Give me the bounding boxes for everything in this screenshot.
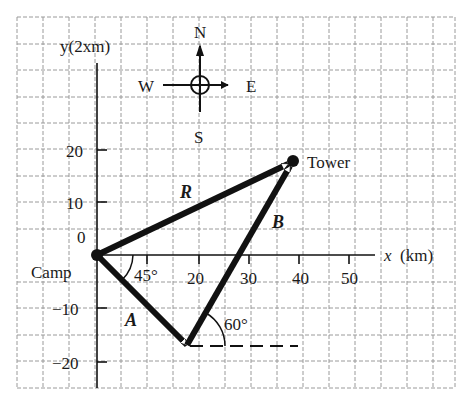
tower-point bbox=[287, 155, 299, 167]
y-tick-neg20: −20 bbox=[52, 354, 79, 373]
x-axis-label-var: x bbox=[383, 246, 392, 265]
camp-label: Camp bbox=[31, 263, 72, 282]
y-axis-label: y(2xm) bbox=[60, 37, 110, 56]
angle-arc-45 bbox=[122, 255, 133, 280]
x-tick-50: 50 bbox=[341, 269, 358, 288]
angle-label-45: 45° bbox=[134, 266, 158, 285]
vector-r bbox=[97, 164, 288, 255]
vector-r-label: R bbox=[179, 182, 192, 202]
compass-west: W bbox=[138, 77, 155, 96]
y-tick-10: 10 bbox=[66, 194, 83, 213]
x-tick-20: 20 bbox=[187, 269, 204, 288]
y-tick-20: 20 bbox=[66, 142, 83, 161]
y-tick-neg10: −10 bbox=[52, 300, 79, 319]
vector-b-label: B bbox=[271, 212, 284, 232]
y-tick-0: 0 bbox=[77, 228, 86, 247]
compass-south: S bbox=[194, 128, 203, 147]
tower-label: Tower bbox=[307, 153, 351, 172]
x-tick-30: 30 bbox=[240, 269, 257, 288]
x-axis-label-unit: (km) bbox=[400, 246, 433, 265]
compass-north: N bbox=[194, 23, 206, 42]
axes bbox=[97, 63, 375, 388]
camp-point bbox=[91, 249, 103, 261]
angle-arc-60 bbox=[206, 313, 225, 346]
angle-label-60: 60° bbox=[224, 315, 248, 334]
x-tick-40: 40 bbox=[292, 269, 309, 288]
compass-east: E bbox=[246, 77, 256, 96]
vector-diagram: y(2xm) x (km) 20 10 0 −10 −20 20 30 40 5… bbox=[0, 0, 460, 400]
vector-a-label: A bbox=[124, 310, 137, 330]
